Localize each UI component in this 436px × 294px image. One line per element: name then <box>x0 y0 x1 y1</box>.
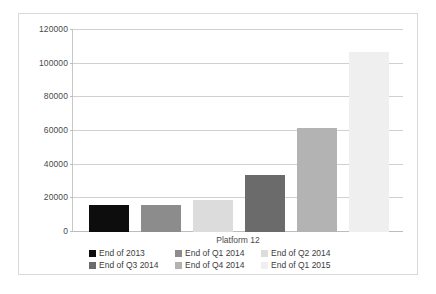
legend-swatch-icon <box>261 262 268 269</box>
bar-slot <box>291 30 343 232</box>
y-tick-label: 100000 <box>39 58 68 68</box>
legend-swatch-icon <box>175 262 182 269</box>
plot-area: 020000400006000080000100000120000 <box>73 30 403 232</box>
legend-swatch-icon <box>261 250 268 257</box>
bar-slot <box>187 30 239 232</box>
legend-item[interactable]: End of Q4 2014 <box>175 260 261 270</box>
bar-slot <box>83 30 135 232</box>
legend-label: End of Q2 2014 <box>271 248 331 258</box>
legend-swatch-icon <box>175 250 182 257</box>
legend-item[interactable]: End of Q2 2014 <box>261 248 347 258</box>
legend-label: End of Q1 2014 <box>185 248 245 258</box>
bar-slot <box>239 30 291 232</box>
legend-item[interactable]: End of Q1 2015 <box>261 260 347 270</box>
legend-item[interactable]: End of Q3 2014 <box>89 260 175 270</box>
bar-series <box>73 30 403 232</box>
legend-row: End of Q3 2014End of Q4 2014End of Q1 20… <box>89 260 347 270</box>
bar[interactable] <box>141 205 182 232</box>
bar[interactable] <box>297 128 338 232</box>
bar[interactable] <box>245 175 286 232</box>
legend-item[interactable]: End of Q1 2014 <box>175 248 261 258</box>
legend-label: End of Q1 2015 <box>271 260 331 270</box>
legend-item[interactable]: End of 2013 <box>89 248 175 258</box>
legend-label: End of 2013 <box>99 248 145 258</box>
y-tick-label: 120000 <box>39 24 68 34</box>
bar[interactable] <box>193 200 234 232</box>
x-axis-title: Platform 12 <box>73 235 403 245</box>
legend-swatch-icon <box>89 262 96 269</box>
y-tick-label: 40000 <box>44 159 68 169</box>
bar[interactable] <box>89 205 130 232</box>
bar-slot <box>343 30 395 232</box>
legend-swatch-icon <box>89 250 96 257</box>
legend-label: End of Q4 2014 <box>185 260 245 270</box>
legend-label: End of Q3 2014 <box>99 260 159 270</box>
y-tick-label: 20000 <box>44 192 68 202</box>
bar[interactable] <box>349 52 390 232</box>
y-tick-label: 60000 <box>44 125 68 135</box>
bar-slot <box>135 30 187 232</box>
y-tick-label: 0 <box>63 226 68 236</box>
y-tick-label: 80000 <box>44 91 68 101</box>
legend-row: End of 2013End of Q1 2014End of Q2 2014 <box>89 248 347 258</box>
chart-legend: End of 2013End of Q1 2014End of Q2 2014E… <box>19 248 417 270</box>
chart-frame: 020000400006000080000100000120000 Platfo… <box>18 13 418 275</box>
